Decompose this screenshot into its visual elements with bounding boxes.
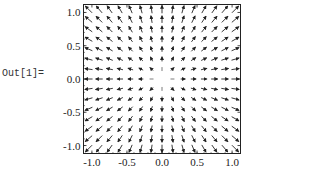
vector-arrow (202, 16, 206, 22)
vector-arrow (118, 135, 122, 141)
vector-arrow (128, 58, 133, 61)
vector-arrow (85, 145, 92, 152)
vector-arrow (129, 6, 132, 13)
vector-arrow (192, 126, 196, 132)
vector-arrow (85, 126, 92, 131)
x-axis-ticks: -1.0-0.50.00.51.0 (83, 5, 239, 168)
x-tick-label: -0.5 (118, 156, 136, 168)
vector-arrow (85, 117, 92, 121)
vector-arrow (211, 47, 217, 51)
vector-arrow (232, 117, 239, 121)
vector-arrow (222, 6, 228, 13)
vector-arrow (192, 6, 195, 13)
vector-arrow (222, 126, 228, 131)
vector-arrow (211, 88, 217, 89)
vector-arrow (202, 6, 206, 13)
vector-arrow (139, 68, 143, 70)
vector-arrows (85, 6, 239, 153)
vector-arrow (172, 126, 173, 132)
vector-arrow (140, 145, 142, 153)
vector-arrow (107, 116, 113, 121)
vector-arrow (172, 116, 173, 122)
vector-arrow (202, 145, 206, 152)
vector-arrow (221, 58, 228, 60)
vector-arrow (212, 27, 217, 32)
vector-arrow (172, 47, 174, 52)
vector-arrow (118, 47, 123, 51)
vector-arrow (222, 136, 228, 142)
vector-arrow (107, 47, 113, 51)
vector-arrow (212, 135, 217, 141)
vector-arrow (107, 88, 113, 89)
vector-arrow (129, 47, 133, 51)
vector-arrow (118, 126, 123, 132)
vector-arrow (211, 98, 217, 100)
x-tick-label: 0.0 (155, 156, 169, 168)
vector-arrow (171, 97, 173, 101)
vector-arrow (118, 116, 123, 121)
vector-arrow (139, 88, 143, 90)
vector-arrow (192, 16, 195, 23)
vector-arrow (96, 136, 102, 142)
vector-arrow (107, 27, 112, 32)
vector-arrow (182, 116, 185, 121)
vector-arrow (129, 37, 133, 42)
vector-arrow (202, 126, 207, 132)
vector-arrow (85, 48, 92, 51)
vector-arrow (129, 126, 133, 132)
vector-arrow (139, 97, 143, 101)
vector-arrow (128, 68, 133, 70)
vector-arrow (221, 68, 228, 69)
y-tick-label: 0.5 (67, 40, 81, 52)
vector-arrow (140, 26, 142, 32)
vector-arrow (211, 37, 217, 42)
vector-arrow (96, 27, 102, 32)
vector-arrow (212, 16, 217, 22)
vector-arrow (140, 135, 142, 142)
vector-arrow (191, 58, 196, 61)
vector-arrow (181, 97, 185, 101)
vector-arrow (128, 97, 133, 100)
vector-arrow (182, 26, 184, 32)
vector-arrow (96, 48, 103, 51)
vector-arrow (201, 107, 206, 111)
vector-arrow (202, 135, 206, 141)
y-tick-label: -1.0 (63, 140, 81, 152)
vector-arrow (182, 37, 185, 42)
vector-arrow (232, 107, 239, 110)
vector-arrow (221, 48, 228, 51)
vector-arrow (118, 107, 123, 111)
vector-arrow (140, 16, 142, 23)
vector-arrow (85, 6, 92, 13)
vector-arrow (129, 107, 133, 111)
vector-arrow (107, 135, 112, 141)
vector-arrow (181, 88, 185, 90)
vector-arrow (107, 68, 113, 69)
vector-arrow (129, 26, 133, 32)
vector-arrow (182, 6, 184, 14)
vector-arrow (171, 87, 174, 90)
vector-arrow (96, 37, 102, 41)
vector-arrow (201, 98, 206, 101)
vector-arrow (107, 58, 113, 60)
vector-arrow (212, 6, 217, 13)
vector-arrow (212, 126, 217, 131)
vector-arrow (118, 16, 122, 22)
x-tick-label: 1.0 (225, 156, 239, 168)
vector-arrow (96, 88, 103, 89)
vector-arrow (107, 98, 113, 100)
vector-arrow (172, 26, 173, 32)
vector-arrow (150, 97, 152, 101)
vector-arrow (232, 37, 239, 41)
vector-arrow (171, 57, 173, 61)
vector-arrow (232, 136, 239, 142)
vector-arrow (117, 98, 122, 101)
vector-arrow (222, 27, 228, 32)
vector-arrow (222, 16, 228, 22)
vector-arrow (202, 26, 207, 32)
vector-arrow (181, 68, 185, 70)
vector-arrow (171, 68, 174, 71)
vector-arrow (232, 27, 239, 32)
vector-arrow (181, 107, 184, 112)
vector-arrow (191, 116, 195, 121)
